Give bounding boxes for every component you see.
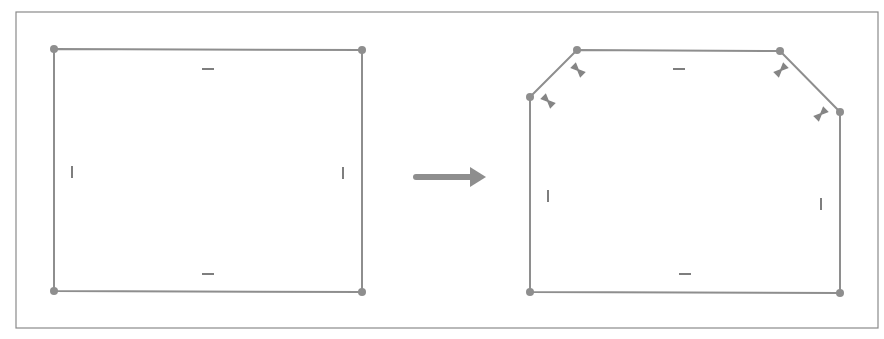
vertex-point[interactable] (776, 47, 784, 55)
vertex-point[interactable] (358, 46, 366, 54)
vertex-point[interactable] (573, 46, 581, 54)
diagram-canvas (0, 0, 884, 339)
vertex-point[interactable] (526, 93, 534, 101)
vertex-point[interactable] (50, 45, 58, 53)
vertex-point[interactable] (836, 108, 844, 116)
vertex-point[interactable] (358, 288, 366, 296)
vertex-point[interactable] (526, 288, 534, 296)
diagram-frame (16, 12, 878, 328)
vertex-point[interactable] (50, 287, 58, 295)
vertex-point[interactable] (836, 289, 844, 297)
